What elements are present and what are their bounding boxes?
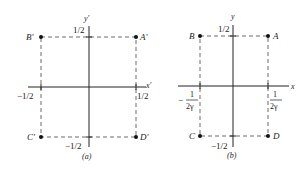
panel-a: y' x' B' A' C' D' 1/2 −1/2 −1/2 1/2 (a) [17,14,152,161]
tick-label-right: 1/2 [137,91,149,101]
axis-x-label: x [290,82,295,91]
tick-label-left: −1/2 [17,91,34,101]
point-d-prime [134,135,138,139]
tick-label-left-num: 1 [190,90,194,99]
corner-label-tl: B' [26,32,34,42]
tick-label-left-den: 2γ [186,102,194,111]
tick-label-bottom: −1/2 [211,141,228,151]
point-c-prime [39,135,43,139]
point-b [198,34,202,38]
axis-x-label: x' [145,81,152,90]
corner-label-tr: A [272,31,279,41]
corner-label-tr: A' [139,32,148,42]
caption: (b) [227,151,237,160]
point-b-prime [39,35,43,39]
point-a [266,34,270,38]
tick-label-right-den: 2γ [270,102,278,111]
tick-label-top: 1/2 [218,24,230,34]
corner-label-br: D' [139,132,149,142]
axis-y-label: y' [83,14,90,23]
corner-label-bl: C' [27,132,36,142]
tick-label-right-num: 1 [273,90,277,99]
point-a-prime [134,35,138,39]
axis-y-label: y [230,12,235,21]
tick-label-bottom: −1/2 [65,141,82,151]
panel-b: y x B A C D 1/2 −1/2 − 1 2γ 1 2γ (b) [178,12,295,160]
tick-label-left-sign: − [178,95,183,105]
point-c [198,134,202,138]
figure: y' x' B' A' C' D' 1/2 −1/2 −1/2 1/2 (a) … [0,0,306,175]
corner-label-br: D [272,131,280,141]
corner-label-bl: C [189,131,196,141]
tick-label-top: 1/2 [73,25,85,35]
point-d [266,134,270,138]
caption: (a) [82,152,92,161]
corner-label-tl: B [189,31,195,41]
